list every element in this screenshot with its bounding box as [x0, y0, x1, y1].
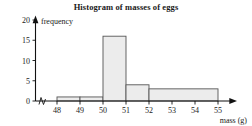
y-tick-label: 10: [22, 57, 30, 66]
histogram-bars: [57, 36, 218, 101]
y-axis-tick-labels: 0 5 10 15 20: [22, 16, 30, 106]
x-tick-label: 54: [191, 106, 199, 115]
x-tick-label: 49: [76, 106, 84, 115]
y-tick-label: 15: [22, 36, 30, 45]
chart-plot-area: 0 5 10 15 20 48 49 50 51 52 53 54 55: [0, 0, 252, 126]
histogram-bar: [103, 36, 126, 101]
histogram-figure: Histogram of masses of eggs 0: [0, 0, 252, 126]
x-axis-arrowhead: [229, 98, 237, 104]
histogram-bar: [57, 97, 80, 101]
x-axis-break-icon: [39, 98, 46, 105]
histogram-bar: [80, 97, 103, 101]
y-tick-label: 5: [26, 77, 30, 86]
y-axis-arrowhead: [33, 16, 39, 24]
y-tick-label: 20: [22, 16, 30, 25]
x-tick-label: 48: [53, 106, 61, 115]
histogram-bar: [149, 89, 218, 101]
histogram-bar: [126, 85, 149, 101]
x-tick-label: 50: [99, 106, 107, 115]
x-tick-label: 51: [122, 106, 130, 115]
x-tick-label: 53: [168, 106, 176, 115]
x-tick-label: 55: [214, 106, 222, 115]
y-axis-label: frequency: [41, 17, 73, 26]
x-axis-label: mass (g): [220, 116, 248, 125]
y-tick-label: 0: [26, 97, 30, 106]
x-axis-tick-labels: 48 49 50 51 52 53 54 55: [53, 106, 222, 115]
x-tick-label: 52: [145, 106, 153, 115]
